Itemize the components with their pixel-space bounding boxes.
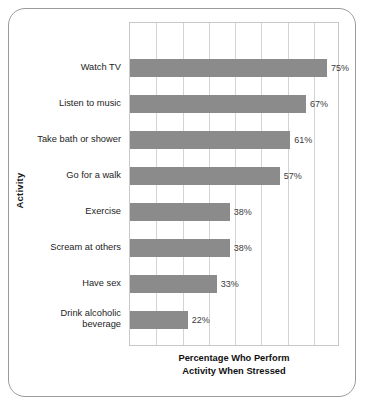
- bar-row: 75%: [130, 50, 338, 86]
- bar[interactable]: [130, 311, 188, 329]
- bar-row: 33%: [130, 266, 338, 302]
- category-label-line: Take bath or shower: [37, 134, 121, 145]
- bar[interactable]: [130, 239, 230, 257]
- bar-row: 38%: [130, 194, 338, 230]
- category-label-line: Watch TV: [81, 62, 121, 73]
- category-label-line: Exercise: [85, 206, 121, 217]
- bar-value-label: 33%: [217, 275, 239, 293]
- bar-row: 57%: [130, 158, 338, 194]
- category-label-line: Scream at others: [50, 242, 121, 253]
- bar[interactable]: [130, 275, 217, 293]
- bar-value-label: 61%: [290, 131, 312, 149]
- bar-value-label: 38%: [230, 203, 252, 221]
- category-label: Drink alcoholicbeverage: [22, 301, 125, 337]
- bar-row: 38%: [130, 230, 338, 266]
- bar[interactable]: [130, 59, 327, 77]
- category-label: Take bath or shower: [22, 121, 125, 157]
- x-axis-title-line-2: Activity When Stressed: [129, 365, 339, 378]
- category-label: Go for a walk: [22, 157, 125, 193]
- bar-value-label: 38%: [230, 239, 252, 257]
- bar[interactable]: [130, 167, 280, 185]
- category-label-line: Have sex: [82, 278, 121, 289]
- bar-value-label: 22%: [188, 311, 210, 329]
- bars-layer: 75%67%61%57%38%38%33%22%: [130, 23, 338, 345]
- bar[interactable]: [130, 203, 230, 221]
- bar-row: 61%: [130, 122, 338, 158]
- category-label-line: beverage: [61, 319, 121, 330]
- bar-row: 67%: [130, 86, 338, 122]
- x-axis-title-line-1: Percentage Who Perform: [129, 352, 339, 365]
- category-label-line: Listen to music: [59, 98, 121, 109]
- category-label-line: Go for a walk: [66, 170, 121, 181]
- category-label: Have sex: [22, 265, 125, 301]
- bar-value-label: 75%: [327, 59, 349, 77]
- bar[interactable]: [130, 95, 306, 113]
- category-label: Scream at others: [22, 229, 125, 265]
- category-label-line: Drink alcoholic: [61, 308, 121, 319]
- bar[interactable]: [130, 131, 290, 149]
- category-label: Watch TV: [22, 49, 125, 85]
- category-label: Listen to music: [22, 85, 125, 121]
- y-axis-category-labels: Watch TVListen to musicTake bath or show…: [22, 22, 125, 346]
- bar-row: 22%: [130, 302, 338, 338]
- chart-figure: Activity Watch TVListen to musicTake bat…: [0, 0, 369, 406]
- bar-value-label: 67%: [306, 95, 328, 113]
- bar-value-label: 57%: [280, 167, 302, 185]
- x-axis-title: Percentage Who Perform Activity When Str…: [129, 352, 339, 378]
- category-label: Exercise: [22, 193, 125, 229]
- plot-area: 75%67%61%57%38%38%33%22%: [129, 22, 339, 346]
